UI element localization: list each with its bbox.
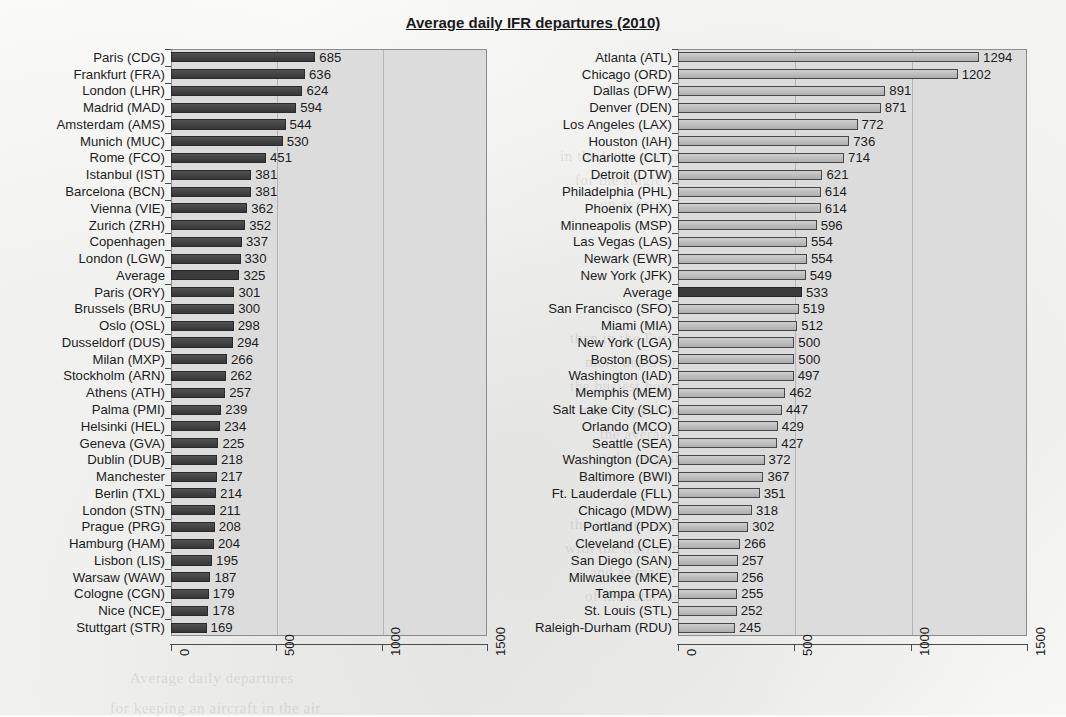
category-label: Madrid (MAD) (8, 101, 165, 114)
bleed-text-14: for keeping an aircraft in the air (110, 700, 321, 717)
y-axis-tick (165, 200, 171, 201)
y-axis-tick (672, 83, 678, 84)
bar-europe (171, 304, 234, 314)
x-axis-tick-label: 500 (800, 634, 815, 656)
bar-europe (171, 488, 216, 498)
bar-value-label: 255 (741, 587, 763, 600)
category-label: Tampa (TPA) (515, 587, 672, 600)
category-label: St. Louis (STL) (515, 604, 672, 617)
bar-europe (171, 405, 221, 415)
bar-value-label: 330 (245, 252, 267, 265)
y-axis-tick (672, 66, 678, 67)
category-label: Dallas (DFW) (515, 84, 672, 97)
bar-value-label: 266 (231, 353, 253, 366)
y-axis-tick (672, 619, 678, 620)
bar-value-label: 429 (782, 420, 804, 433)
x-axis-tick-label: 1000 (917, 627, 932, 656)
bar-value-label: 549 (810, 269, 832, 282)
x-axis-tick-label: 1500 (493, 627, 508, 656)
y-axis-tick (672, 602, 678, 603)
bar-usa (678, 606, 737, 616)
bar-usa (678, 321, 797, 331)
bar-value-label: 519 (803, 302, 825, 315)
bar-usa (678, 589, 737, 599)
bar-europe (171, 136, 283, 146)
category-label: Detroit (DTW) (515, 168, 672, 181)
bar-usa (678, 539, 740, 549)
bar-europe (171, 421, 220, 431)
bar-value-label: 178 (212, 604, 234, 617)
bar-value-label: 554 (811, 235, 833, 248)
category-label: Oslo (OSL) (8, 319, 165, 332)
bar-value-label: 195 (216, 554, 238, 567)
y-axis-tick (672, 217, 678, 218)
x-axis-tick (487, 644, 488, 651)
bar-europe (171, 103, 296, 113)
y-axis-tick (165, 602, 171, 603)
bar-value-label: 208 (219, 520, 241, 533)
x-axis-tick (1027, 644, 1028, 651)
y-axis-tick (672, 116, 678, 117)
bar-value-label: 636 (309, 68, 331, 81)
category-label: Miami (MIA) (515, 319, 672, 332)
bar-europe (171, 455, 217, 465)
bar-europe (171, 438, 218, 448)
bar-europe (171, 254, 241, 264)
bar-value-label: 381 (255, 168, 277, 181)
bar-europe (171, 86, 302, 96)
bar-usa (678, 304, 799, 314)
bar-value-label: 624 (306, 84, 328, 97)
bar-value-label: 544 (290, 118, 312, 131)
bar-value-label: 302 (752, 520, 774, 533)
bar-value-label: 736 (853, 135, 875, 148)
bar-usa (678, 86, 885, 96)
y-axis-tick (165, 267, 171, 268)
bar-value-label: 211 (219, 504, 240, 517)
y-axis-tick (672, 301, 678, 302)
bar-value-label: 497 (798, 369, 820, 382)
category-label: Denver (DEN) (515, 101, 672, 114)
bar-usa (678, 488, 760, 498)
bar-usa (678, 354, 794, 364)
bar-value-label: 512 (801, 319, 823, 332)
bar-value-label: 325 (243, 269, 265, 282)
bar-value-label: 1294 (983, 51, 1012, 64)
y-axis-tick (165, 166, 171, 167)
bar-europe (171, 69, 305, 79)
y-axis-tick (165, 116, 171, 117)
category-label: Paris (ORY) (8, 286, 165, 299)
category-label: Brussels (BRU) (8, 302, 165, 315)
bar-europe (171, 321, 234, 331)
category-label: Prague (PRG) (8, 520, 165, 533)
category-label: Memphis (MEM) (515, 386, 672, 399)
category-label: Dusseldorf (DUS) (8, 336, 165, 349)
y-axis-tick (672, 452, 678, 453)
category-label: Milan (MXP) (8, 353, 165, 366)
bar-value-label: 451 (270, 151, 292, 164)
y-axis-tick (165, 150, 171, 151)
bar-usa (678, 405, 782, 415)
bar-usa (678, 270, 806, 280)
category-label: Paris (CDG) (8, 51, 165, 64)
bar-value-label: 214 (220, 487, 242, 500)
bar-europe (171, 187, 251, 197)
y-axis-tick (672, 267, 678, 268)
bar-europe (171, 522, 215, 532)
bar-usa (678, 623, 735, 633)
category-label: New York (JFK) (515, 269, 672, 282)
bar-europe (171, 203, 247, 213)
x-axis-line-usa (677, 644, 1028, 645)
category-label: Vienna (VIE) (8, 202, 165, 215)
bar-usa (678, 254, 807, 264)
category-label: Helsinki (HEL) (8, 420, 165, 433)
bar-europe (171, 170, 251, 180)
y-axis-tick (672, 99, 678, 100)
bar-value-label: 187 (214, 571, 236, 584)
y-axis-tick (165, 368, 171, 369)
category-label: Newark (EWR) (515, 252, 672, 265)
x-axis-tick-label: 1500 (1033, 627, 1048, 656)
y-axis-tick (672, 435, 678, 436)
category-label: London (LGW) (8, 252, 165, 265)
bar-value-label: 225 (222, 437, 244, 450)
bar-usa (678, 119, 858, 129)
